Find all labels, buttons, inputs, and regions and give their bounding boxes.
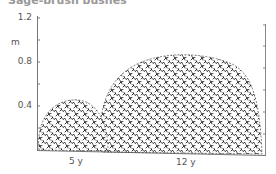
y-axis-right xyxy=(263,24,266,156)
y-tick-0-4: 0.4 xyxy=(8,100,32,110)
bush-growth-diagram xyxy=(0,0,276,174)
bush-5-years-foliage xyxy=(39,100,108,151)
y-tick-1-2: 1.2 xyxy=(8,12,32,22)
bush-label-12y: 12 y xyxy=(176,157,196,167)
bush-12-years xyxy=(100,55,262,154)
y-tick-0-8: 0.8 xyxy=(8,56,32,66)
bush-label-5y: 5 y xyxy=(69,156,83,166)
y-axis-unit: m xyxy=(11,37,20,47)
